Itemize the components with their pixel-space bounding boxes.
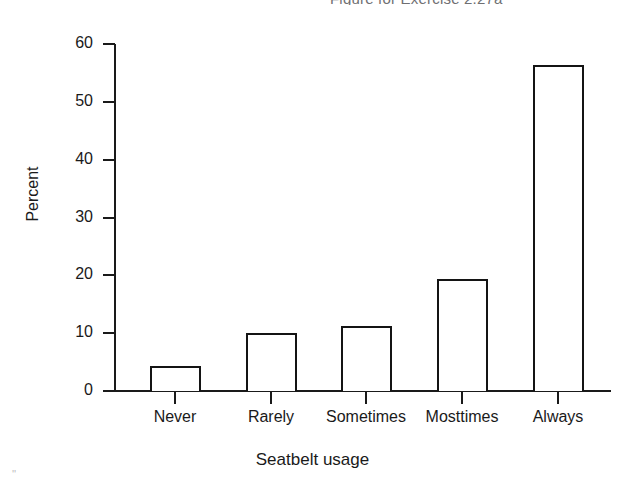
x-axis-tick <box>270 392 272 404</box>
x-axis-tick-label: Always <box>498 408 618 426</box>
bar <box>150 366 201 391</box>
y-axis-tick <box>103 390 115 392</box>
x-axis-tick <box>365 392 367 404</box>
y-axis-tick-label: 50 <box>33 93 93 109</box>
y-axis-tick <box>103 43 115 45</box>
y-axis-tick <box>103 159 115 161</box>
y-axis-tick-label: 30 <box>33 209 93 225</box>
x-axis-tick <box>461 392 463 404</box>
scan-artifact: '' <box>12 470 18 478</box>
bar <box>246 333 297 391</box>
chart-figure: Figure for Exercise 2.27a Percent Seatbe… <box>0 0 625 494</box>
y-axis-tick <box>103 217 115 219</box>
x-axis-title: Seatbelt usage <box>0 450 625 470</box>
y-axis-tick-label: 20 <box>33 266 93 282</box>
chart-title: Figure for Exercise 2.27a <box>330 0 620 5</box>
y-axis-tick-label: 10 <box>33 324 93 340</box>
x-axis-tick <box>557 392 559 404</box>
y-axis-tick-label: 60 <box>33 35 93 51</box>
bar <box>533 65 584 391</box>
y-axis-tick <box>103 101 115 103</box>
bar <box>341 326 392 391</box>
y-axis-tick <box>103 332 115 334</box>
bar <box>437 279 488 391</box>
y-axis-tick-label: 40 <box>33 151 93 167</box>
y-axis-tick <box>103 274 115 276</box>
x-axis-tick <box>174 392 176 404</box>
y-axis-tick-label: 0 <box>33 382 93 398</box>
